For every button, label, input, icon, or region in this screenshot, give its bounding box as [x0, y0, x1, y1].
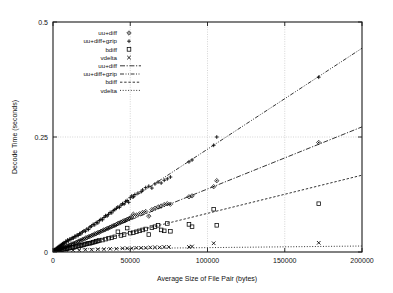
plot-canvas: 05000010000015000020000000.250.5 Average… [0, 0, 393, 293]
legend-label: uu+diff [98, 62, 117, 69]
decode-time-scatter-figure: 05000010000015000020000000.250.5 Average… [0, 0, 393, 293]
y-tick-label: 0.5 [38, 19, 48, 26]
x-tick-label: 150000 [273, 257, 296, 264]
x-tick-label: 0 [51, 257, 55, 264]
y-tick-label: 0 [44, 249, 48, 256]
legend-label: uu+diff+gzip [83, 37, 117, 44]
legend-label: vdelta [100, 87, 117, 94]
x-tick-label: 50000 [121, 257, 141, 264]
y-tick-label: 0.25 [34, 134, 48, 141]
y-axis-title: Decode Time (seconds) [11, 100, 19, 174]
legend-label: uu+diff+gzip [83, 70, 117, 77]
legend-label: bdiff [105, 46, 117, 53]
legend-label: uu+diff [98, 29, 117, 36]
legend-label: vdelta [100, 54, 117, 61]
x-tick-label: 100000 [196, 257, 219, 264]
x-axis-title: Average Size of File Pair (bytes) [157, 275, 257, 283]
x-tick-label: 200000 [350, 257, 373, 264]
legend-label: bdiff [105, 78, 117, 85]
